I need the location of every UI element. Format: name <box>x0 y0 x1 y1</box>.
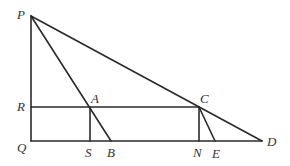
label-R: R <box>16 99 25 114</box>
geometry-diagram: P R Q A S B C N E D <box>0 0 290 166</box>
label-C: C <box>200 91 209 106</box>
label-S: S <box>85 145 92 160</box>
segment-PB <box>31 16 111 141</box>
segment-PD <box>31 16 262 141</box>
label-A: A <box>90 91 99 106</box>
label-E: E <box>211 146 220 161</box>
label-N: N <box>192 145 203 160</box>
label-B: B <box>107 145 115 160</box>
label-P: P <box>16 7 25 22</box>
label-D: D <box>266 134 277 149</box>
label-Q: Q <box>17 140 27 155</box>
